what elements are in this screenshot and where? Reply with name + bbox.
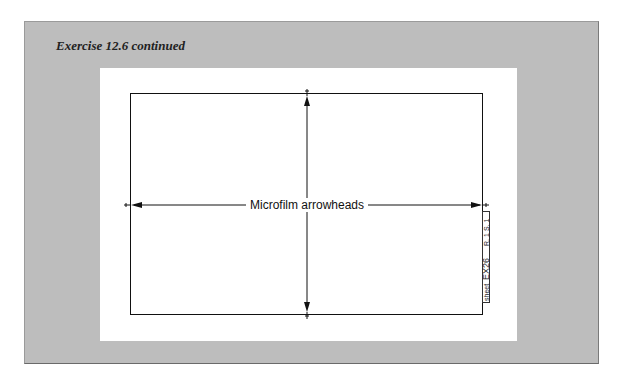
drawing-sheet — [0, 0, 626, 383]
arrowhead-bottom-icon — [304, 302, 310, 312]
microfilm-arrowheads-label: Microfilm arrowheads — [246, 198, 368, 212]
title-block-sheet: sheet — [483, 284, 490, 301]
title-block-sheet-number: S. 1 — [483, 219, 490, 231]
arrowhead-left-icon — [131, 202, 142, 208]
arrowhead-right-icon — [471, 202, 482, 208]
title-block-drawing-number: EX26 — [482, 258, 491, 280]
title-block-revision: R. 1 — [483, 233, 490, 246]
arrowhead-top-icon — [304, 96, 310, 106]
